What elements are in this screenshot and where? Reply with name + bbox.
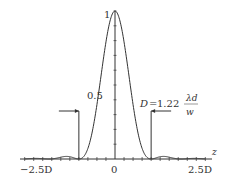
formula-lhs: D (139, 98, 148, 109)
arrowhead (75, 109, 79, 113)
formula-coef: 1.22 (157, 98, 179, 109)
annotation-formula: D = 1.22 λd w (139, 93, 198, 117)
x-axis-label: z (211, 147, 217, 157)
x-tick-label-pos: 2.5D (188, 164, 212, 175)
y-tick-label-one: 1 (104, 9, 110, 20)
formula-den: w (186, 107, 194, 117)
x-tick-label-neg: −2.5D (20, 164, 52, 175)
arrowhead (151, 109, 155, 113)
chart: z −2.5D 0 2.5D 0.5 1 D = 1.22 λd w (0, 0, 227, 189)
y-tick-label-half: 0.5 (87, 90, 103, 101)
formula-num: λd (185, 93, 198, 103)
x-tick-label-zero: 0 (111, 164, 117, 175)
